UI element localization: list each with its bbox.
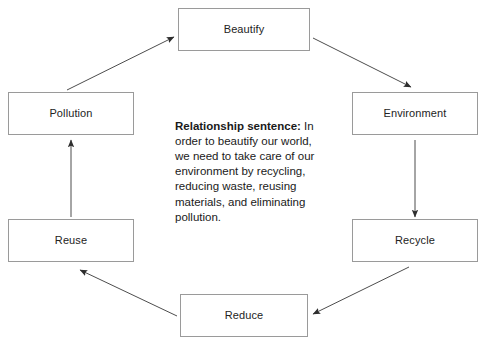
node-beautify-label: Beautify [224, 23, 265, 36]
node-reduce[interactable]: Reduce [180, 294, 308, 337]
node-reuse[interactable]: Reuse [8, 219, 134, 262]
node-pollution[interactable]: Pollution [8, 92, 134, 135]
node-beautify[interactable]: Beautify [178, 8, 310, 51]
node-reduce-label: Reduce [225, 309, 264, 322]
edge-pollution-to-beautify [67, 37, 174, 90]
node-environment[interactable]: Environment [352, 92, 478, 135]
edge-recycle-to-reduce [313, 267, 409, 314]
node-pollution-label: Pollution [49, 107, 92, 120]
edge-beautify-to-environment [313, 38, 411, 87]
relationship-sentence: Relationship sentence: In order to beaut… [175, 119, 325, 225]
node-recycle-label: Recycle [395, 234, 435, 247]
relationship-lead-label: Relationship sentence: [175, 120, 301, 132]
edge-reduce-to-reuse [80, 270, 177, 316]
node-recycle[interactable]: Recycle [352, 219, 478, 262]
diagram-canvas: Beautify Environment Recycle Reduce Reus… [0, 0, 487, 348]
relationship-body-text: In order to beautify our world, we need … [175, 120, 314, 223]
node-environment-label: Environment [384, 107, 447, 120]
node-reuse-label: Reuse [55, 234, 87, 247]
